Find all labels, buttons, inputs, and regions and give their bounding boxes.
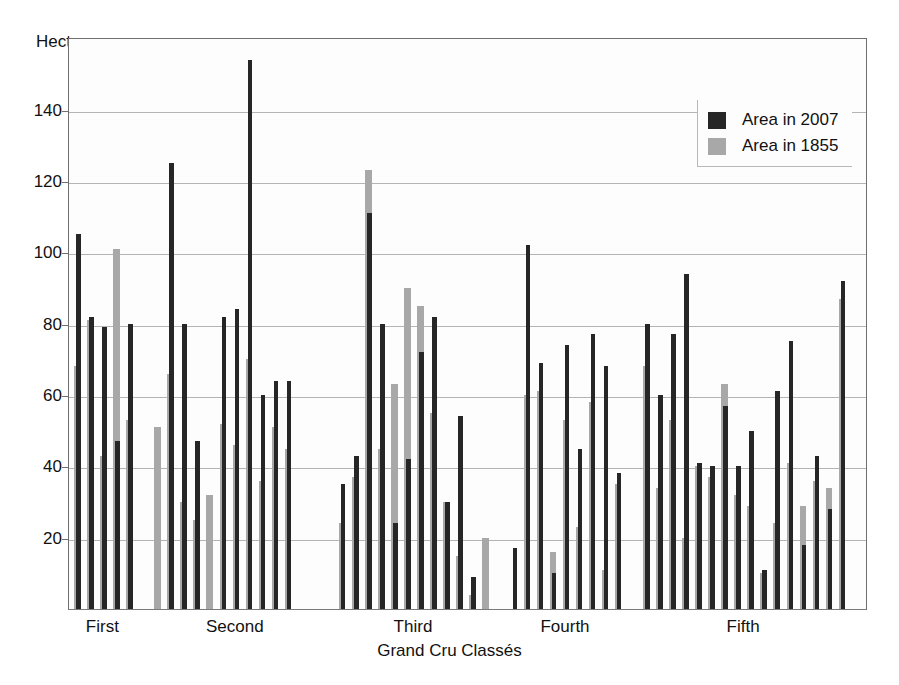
- bar-pair: [220, 37, 227, 609]
- bar-pair: [365, 37, 372, 609]
- bar-area-2007: [604, 366, 609, 609]
- y-tick-label: 60: [6, 386, 62, 406]
- bar-pair: [113, 37, 120, 609]
- legend-swatch-2007: [708, 112, 726, 129]
- bar-area-2007: [645, 324, 650, 609]
- x-axis-title: Grand Cru Classés: [0, 641, 899, 661]
- bar-pair: [524, 37, 531, 609]
- bar-pair: [656, 37, 663, 609]
- bar-pair: [285, 37, 292, 609]
- bar-area-2007: [802, 545, 807, 609]
- bar-area-2007: [697, 463, 702, 609]
- bar-pair: [456, 37, 463, 609]
- bar-area-2007: [591, 334, 596, 609]
- bar-pair: [352, 37, 359, 609]
- bar-area-2007: [341, 484, 346, 609]
- bar-pair: [563, 37, 570, 609]
- bar-pair: [443, 37, 450, 609]
- y-tick-mark: [62, 396, 68, 397]
- legend-label-1855: Area in 1855: [742, 136, 838, 156]
- y-tick-label: 100: [6, 243, 62, 263]
- bar-area-2007: [789, 341, 794, 609]
- x-group-label-third: Third: [394, 617, 433, 637]
- bar-pair: [391, 37, 398, 609]
- bar-area-2007: [182, 324, 187, 609]
- bar-pair: [126, 37, 133, 609]
- bar-area-2007: [102, 327, 107, 609]
- legend-swatch-1855: [708, 138, 726, 155]
- x-group-label-fifth: Fifth: [727, 617, 760, 637]
- bar-pair: [482, 37, 489, 609]
- bar-area-2007: [261, 395, 266, 609]
- bar-pair: [100, 37, 107, 609]
- bar-area-2007: [552, 573, 557, 609]
- bar-area-2007: [513, 548, 518, 609]
- bar-pair: [206, 37, 213, 609]
- y-tick-mark: [62, 325, 68, 326]
- bar-area-2007: [458, 416, 463, 609]
- bar-pair: [246, 37, 253, 609]
- bar-pair: [193, 37, 200, 609]
- bar-pair: [615, 37, 622, 609]
- bar-area-2007: [76, 234, 81, 609]
- bar-area-1855: [206, 495, 213, 609]
- bar-area-2007: [393, 523, 398, 609]
- bar-pair: [511, 37, 518, 609]
- bar-area-2007: [539, 363, 544, 609]
- bar-area-2007: [419, 352, 424, 609]
- bar-area-2007: [617, 473, 622, 609]
- bar-area-2007: [710, 466, 715, 609]
- x-group-label-first: First: [86, 617, 119, 637]
- bar-pair: [272, 37, 279, 609]
- x-group-label-second: Second: [206, 617, 264, 637]
- bar-area-2007: [406, 459, 411, 609]
- bar-area-2007: [828, 509, 833, 609]
- bar-pair: [430, 37, 437, 609]
- bar-pair: [233, 37, 240, 609]
- bar-pair: [311, 37, 318, 609]
- bar-area-1855: [154, 427, 161, 609]
- bar-area-2007: [128, 324, 133, 609]
- bar-pair: [339, 37, 346, 609]
- bar-area-2007: [115, 441, 120, 609]
- y-tick-mark: [62, 467, 68, 468]
- bar-pair: [87, 37, 94, 609]
- bar-pair: [682, 37, 689, 609]
- bar-area-2007: [380, 324, 385, 609]
- bar-pair: [417, 37, 424, 609]
- bar-area-2007: [749, 431, 754, 609]
- bar-area-2007: [222, 317, 227, 609]
- y-tick-mark: [62, 539, 68, 540]
- bar-area-2007: [723, 406, 728, 609]
- bar-area-2007: [684, 274, 689, 609]
- bar-pair: [378, 37, 385, 609]
- legend-label-2007: Area in 2007: [742, 110, 838, 130]
- bar-pair: [259, 37, 266, 609]
- bar-area-2007: [736, 466, 741, 609]
- bar-area-2007: [432, 317, 437, 609]
- bar-pair: [180, 37, 187, 609]
- bar-area-1855: [482, 538, 489, 609]
- bar-area-2007: [775, 391, 780, 609]
- legend-item: Area in 2007: [708, 107, 838, 133]
- bar-area-2007: [658, 395, 663, 609]
- bar-chart: Hectares 14012010080604020 FirstSecondTh…: [0, 0, 899, 685]
- legend-item: Area in 1855: [708, 133, 838, 159]
- bar-pair: [576, 37, 583, 609]
- bar-area-2007: [815, 456, 820, 609]
- bar-area-2007: [235, 309, 240, 609]
- bar-area-2007: [248, 60, 253, 609]
- bar-area-2007: [841, 281, 846, 609]
- bar-pair: [643, 37, 650, 609]
- y-tick-label: 20: [6, 529, 62, 549]
- bar-area-2007: [578, 449, 583, 610]
- bar-pair: [74, 37, 81, 609]
- bar-area-2007: [274, 381, 279, 609]
- bar-area-2007: [565, 345, 570, 609]
- bar-area-2007: [169, 163, 174, 609]
- bar-pair: [550, 37, 557, 609]
- bar-area-2007: [471, 577, 476, 609]
- bar-area-2007: [526, 245, 531, 609]
- bar-pair: [469, 37, 476, 609]
- y-tick-label: 140: [6, 101, 62, 121]
